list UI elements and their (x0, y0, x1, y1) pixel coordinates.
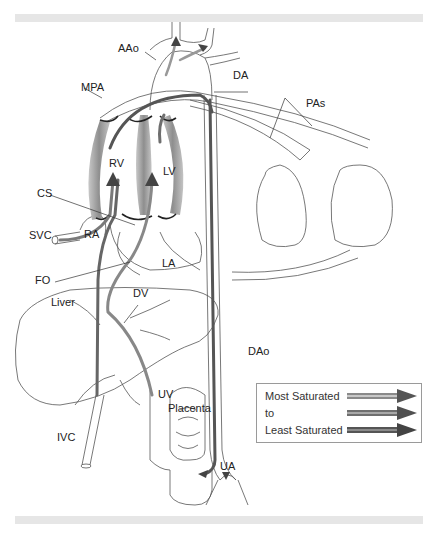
label-ua: UA (220, 461, 235, 472)
label-la: LA (162, 258, 175, 269)
legend-label-to: to (265, 407, 274, 419)
label-ivc: IVC (57, 432, 75, 443)
arrow-most-saturated-icon (347, 389, 417, 403)
saturation-legend: Most Saturated to Least Saturated (256, 383, 422, 443)
label-placenta: Placenta (168, 403, 211, 414)
label-ra: RA (84, 229, 99, 240)
legend-label-most: Most Saturated (265, 390, 340, 402)
label-svc: SVC (29, 230, 52, 241)
label-fo: FO (35, 275, 50, 286)
label-liver: Liver (51, 297, 75, 308)
label-da: DA (233, 70, 248, 81)
fetal-circulation-illustration (0, 0, 437, 533)
label-dao: DAo (248, 346, 269, 357)
label-rv: RV (109, 158, 124, 169)
label-uv: UV (158, 389, 173, 400)
label-lv: LV (163, 166, 176, 177)
arrow-mid-saturated-icon (347, 406, 417, 420)
label-mpa: MPA (81, 82, 104, 93)
label-dv: DV (133, 288, 148, 299)
label-aao: AAo (118, 43, 139, 54)
legend-label-least: Least Saturated (265, 424, 343, 436)
label-pas: PAs (306, 98, 325, 109)
arrow-least-saturated-icon (347, 423, 417, 437)
label-cs: CS (37, 188, 52, 199)
